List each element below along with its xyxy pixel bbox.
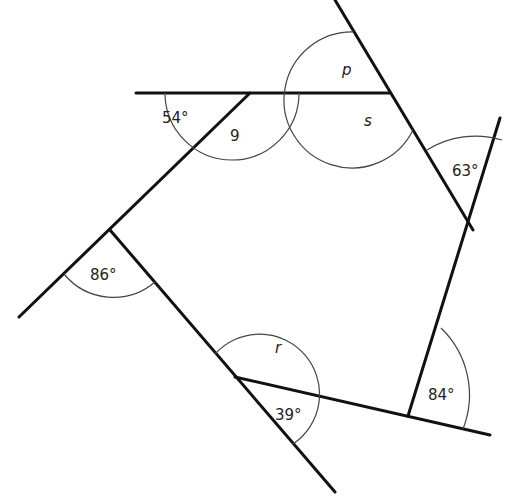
line-left-diagonal: [19, 93, 250, 317]
label-p: p: [341, 61, 352, 79]
label-r: r: [275, 339, 282, 357]
label-84: 84°: [428, 386, 455, 404]
label-s: s: [364, 112, 372, 130]
label-39: 39°: [275, 406, 302, 424]
line-lower-left-diagonal: [110, 230, 335, 492]
geometry-diagram: 54° 9 p s 63° 86° r 39° 84°: [0, 0, 520, 496]
label-q: 9: [230, 127, 240, 145]
line-upper-right-diagonal: [335, 0, 473, 230]
angle-arc-r-39: [215, 334, 320, 444]
label-86: 86°: [90, 266, 117, 284]
label-54: 54°: [162, 109, 189, 127]
angle-arc-84: [441, 328, 469, 429]
label-63: 63°: [452, 162, 479, 180]
